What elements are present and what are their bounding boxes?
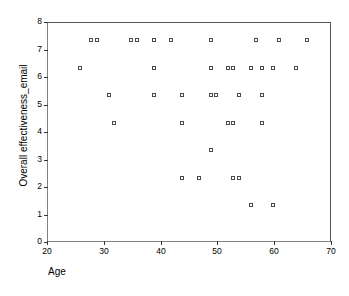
x-tick-60 (274, 241, 275, 245)
data-point (152, 38, 156, 42)
x-tick-label-50: 50 (205, 247, 229, 256)
x-axis-title: Age (48, 266, 66, 277)
data-point (214, 93, 218, 97)
x-tick-40 (161, 241, 162, 245)
data-point (135, 38, 139, 42)
data-point (209, 66, 213, 70)
data-point (226, 66, 230, 70)
data-point (271, 66, 275, 70)
data-point (249, 66, 253, 70)
data-point (180, 121, 184, 125)
x-tick-label-30: 30 (92, 247, 116, 256)
y-tick-8 (44, 22, 48, 23)
x-tick-label-60: 60 (262, 247, 286, 256)
data-point (89, 38, 93, 42)
data-point (78, 66, 82, 70)
data-point (180, 93, 184, 97)
data-point (237, 93, 241, 97)
data-point (237, 176, 241, 180)
data-point (231, 121, 235, 125)
y-axis-title: Overall effectiveness_email (18, 31, 29, 221)
y-tick-label-8: 8 (12, 17, 42, 26)
x-tick-label-20: 20 (35, 247, 59, 256)
data-point (152, 66, 156, 70)
scatter-chart: 012345678 203040506070 Overall effective… (0, 0, 349, 296)
data-point (294, 66, 298, 70)
x-tick-70 (331, 241, 332, 245)
plot-area-frame (47, 22, 331, 242)
data-point (254, 38, 258, 42)
data-point (112, 121, 116, 125)
y-tick-4 (44, 132, 48, 133)
y-tick-7 (44, 50, 48, 51)
data-point (231, 176, 235, 180)
y-tick-label-0: 0 (12, 237, 42, 246)
x-tick-label-40: 40 (149, 247, 173, 256)
data-point (152, 93, 156, 97)
data-point (95, 38, 99, 42)
x-tick-label-70: 70 (319, 247, 343, 256)
data-point (271, 203, 275, 207)
data-point (209, 38, 213, 42)
data-point (277, 38, 281, 42)
data-point (169, 38, 173, 42)
y-tick-3 (44, 160, 48, 161)
x-axis-line (47, 241, 331, 242)
x-tick-30 (104, 241, 105, 245)
y-tick-1 (44, 215, 48, 216)
data-point (260, 66, 264, 70)
x-tick-50 (217, 241, 218, 245)
data-point (107, 93, 111, 97)
data-point (249, 203, 253, 207)
data-point (260, 93, 264, 97)
data-point (180, 176, 184, 180)
y-tick-6 (44, 77, 48, 78)
x-tick-20 (47, 241, 48, 245)
data-point (197, 176, 201, 180)
y-tick-2 (44, 187, 48, 188)
y-tick-5 (44, 105, 48, 106)
data-point (231, 66, 235, 70)
data-point (209, 148, 213, 152)
data-point (209, 93, 213, 97)
data-point (226, 121, 230, 125)
data-point (260, 121, 264, 125)
data-point (129, 38, 133, 42)
data-point (305, 38, 309, 42)
